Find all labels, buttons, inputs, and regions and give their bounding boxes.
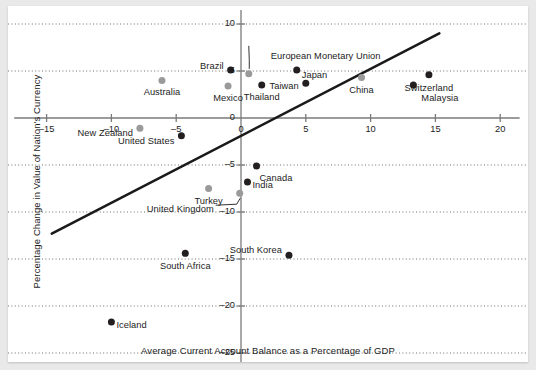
data-point-label: Switzerland xyxy=(369,83,489,93)
y-axis-title: Percentage Change in Value of Nation's C… xyxy=(31,62,42,302)
figure-container: –15–10–5051015201050–5–10–15–20–25 Austr… xyxy=(0,0,536,370)
x-tick-label: 20 xyxy=(480,124,520,134)
data-point[interactable] xyxy=(244,178,251,185)
x-tick-label: 5 xyxy=(286,124,326,134)
data-point-label: South Africa xyxy=(125,261,245,271)
data-point[interactable] xyxy=(136,125,143,132)
x-tick-label: 0 xyxy=(221,124,261,134)
x-axis-title: Average Current Account Balance as a Per… xyxy=(0,345,536,356)
data-point-label: India xyxy=(252,180,272,190)
data-point[interactable] xyxy=(293,67,300,74)
x-tick-label: 15 xyxy=(415,124,455,134)
leader-line xyxy=(249,46,250,69)
data-point-label: Japan xyxy=(302,70,328,80)
data-point-label: Iceland xyxy=(116,320,146,330)
data-point-label: European Monetary Union xyxy=(271,51,381,61)
data-point-label: Taiwan xyxy=(8,81,299,91)
data-point[interactable] xyxy=(425,71,432,78)
data-point-label: South Korea xyxy=(8,245,282,255)
data-point[interactable] xyxy=(205,185,212,192)
y-tick-label: 10 xyxy=(193,18,235,28)
x-tick-label: 10 xyxy=(351,124,391,134)
data-point[interactable] xyxy=(245,70,252,77)
data-point[interactable] xyxy=(285,252,292,259)
y-tick-label: 0 xyxy=(193,112,235,122)
y-tick-label: –5 xyxy=(193,159,235,169)
data-point[interactable] xyxy=(108,318,115,325)
chart-card: –15–10–5051015201050–5–10–15–20–25 Austr… xyxy=(8,6,528,362)
data-point[interactable] xyxy=(253,162,260,169)
x-tick-label: –5 xyxy=(156,124,196,134)
y-tick-label: –20 xyxy=(193,300,235,310)
data-point[interactable] xyxy=(358,74,365,81)
data-point-label: Malaysia xyxy=(421,93,458,103)
